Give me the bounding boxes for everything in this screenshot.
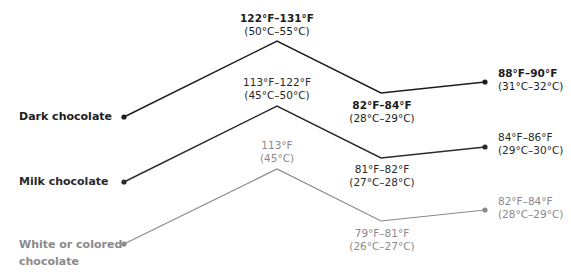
dark-cool-f: 82°F–84°F (322, 99, 442, 112)
milk-melt-c: (45°C–50°C) (217, 89, 337, 102)
series-label-dark: Dark chocolate (19, 108, 112, 125)
series-label-white-line1: White or colored (19, 236, 122, 253)
series-label-white: White or colored chocolate (19, 236, 122, 270)
white-cool-c: (26°C–27°C) (322, 240, 442, 253)
dark-start-dot (121, 114, 126, 119)
milk-working-f: 84°F–86°F (498, 131, 563, 144)
white-melt-c: (45°C) (217, 152, 337, 165)
white-cool-f: 79°F–81°F (322, 227, 442, 240)
dark-cool-temp: 82°F–84°F (28°C–29°C) (322, 99, 442, 125)
dark-working-f: 88°F–90°F (498, 67, 563, 80)
dark-end-dot (482, 79, 487, 84)
milk-working-temp: 84°F–86°F (29°C–30°C) (498, 131, 563, 157)
white-end-dot (482, 207, 487, 212)
dark-cool-c: (28°C–29°C) (322, 112, 442, 125)
white-cool-temp: 79°F–81°F (26°C–27°C) (322, 227, 442, 253)
dark-melt-f: 122°F–131°F (217, 12, 337, 25)
milk-end-dot (482, 144, 487, 149)
white-melt-f: 113°F (217, 139, 337, 152)
milk-start-dot (121, 179, 126, 184)
dark-working-c: (31°C–32°C) (498, 80, 563, 93)
series-label-milk: Milk chocolate (19, 173, 109, 190)
dark-melt-temp: 122°F–131°F (50°C–55°C) (217, 12, 337, 38)
dark-working-temp: 88°F–90°F (31°C–32°C) (498, 67, 563, 93)
white-working-temp: 82°F–84°F (28°C–29°C) (498, 195, 563, 221)
milk-melt-f: 113°F–122°F (217, 76, 337, 89)
milk-cool-temp: 81°F–82°F (27°C–28°C) (322, 163, 442, 189)
series-label-white-line2: chocolate (19, 253, 122, 270)
milk-cool-f: 81°F–82°F (322, 163, 442, 176)
dark-melt-c: (50°C–55°C) (217, 25, 337, 38)
white-melt-temp: 113°F (45°C) (217, 139, 337, 165)
white-working-f: 82°F–84°F (498, 195, 563, 208)
milk-melt-temp: 113°F–122°F (45°C–50°C) (217, 76, 337, 102)
milk-working-c: (29°C–30°C) (498, 144, 563, 157)
milk-cool-c: (27°C–28°C) (322, 176, 442, 189)
white-working-c: (28°C–29°C) (498, 208, 563, 221)
